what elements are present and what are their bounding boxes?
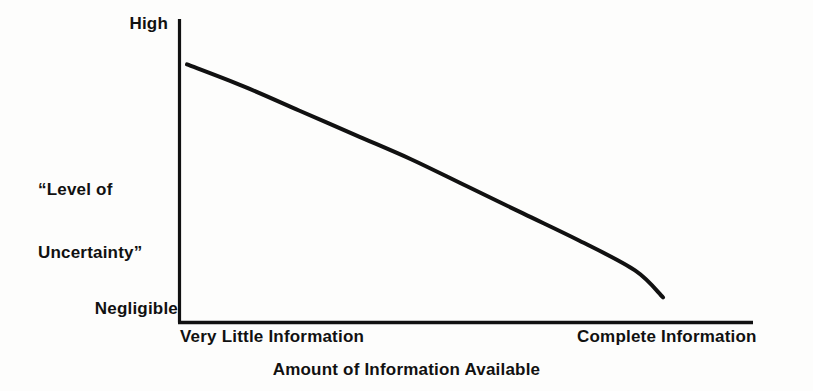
y-axis-title: “Level of Uncertainty”: [38, 139, 168, 305]
y-axis-title-line-2: Uncertainty”: [38, 243, 168, 264]
y-axis-tick-label-high: High: [129, 14, 168, 35]
y-axis-tick-label-negligible: Negligible: [95, 299, 178, 320]
x-axis-title: Amount of Information Available: [0, 360, 813, 381]
y-axis-title-line-1: “Level of: [38, 180, 168, 201]
uncertainty-information-chart: High “Level of Uncertainty” Negligible V…: [0, 0, 813, 391]
x-axis-tick-label-complete-information: Complete Information: [577, 327, 757, 348]
x-axis-tick-label-very-little-information: Very Little Information: [180, 327, 364, 348]
uncertainty-curve: [187, 64, 663, 297]
